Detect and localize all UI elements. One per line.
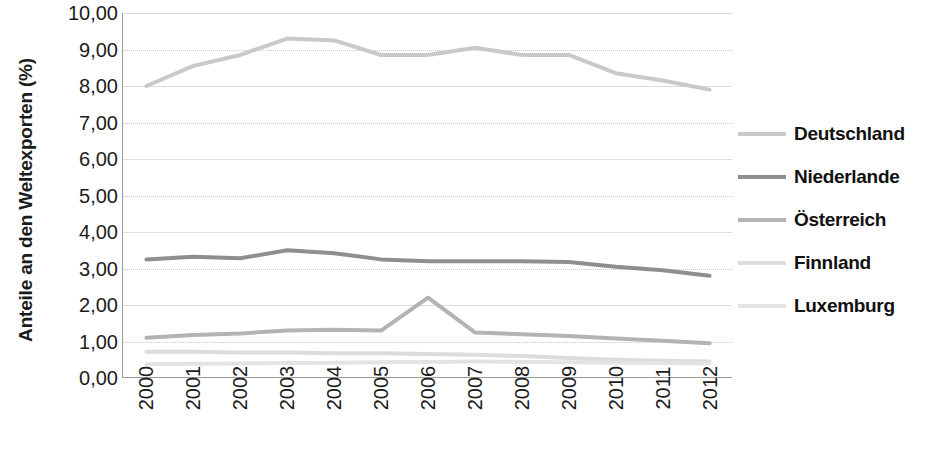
x-axis-tick-labels: 2000200120022003200420052006200720082009… [122, 378, 732, 456]
legend-label: Österreich [794, 209, 886, 231]
y-axis-tick-label: 6,00 [24, 148, 118, 171]
chart-legend: DeutschlandNiederlandeÖsterreichFinnland… [738, 112, 941, 327]
x-axis-tick-label: 2011 [652, 351, 675, 425]
legend-item[interactable]: Luxemburg [738, 284, 941, 327]
y-axis-tick-label: 5,00 [24, 184, 118, 207]
y-axis-tick-label: 9,00 [24, 38, 118, 61]
legend-color-swatch [738, 218, 786, 222]
x-axis-tick-label: 2002 [229, 351, 252, 425]
series-line [146, 298, 709, 344]
legend-label: Luxemburg [794, 295, 895, 317]
x-axis-tick-label: 2004 [323, 351, 346, 425]
legend-item[interactable]: Deutschland [738, 112, 941, 155]
x-axis-tick-label: 2003 [276, 351, 299, 425]
x-axis-tick-label: 2006 [417, 351, 440, 425]
x-axis-tick-label: 2000 [135, 351, 158, 425]
x-axis-tick-label: 2005 [370, 351, 393, 425]
x-axis-tick-label: 2001 [182, 351, 205, 425]
x-axis-tick-label: 2008 [511, 351, 534, 425]
legend-label: Niederlande [794, 166, 899, 188]
legend-item[interactable]: Finnland [738, 241, 941, 284]
legend-color-swatch [738, 132, 786, 136]
legend-label: Finnland [794, 252, 871, 274]
x-axis-tick-label: 2012 [699, 351, 722, 425]
plot-area [122, 13, 732, 378]
y-axis-tick-label: 3,00 [24, 257, 118, 280]
y-axis-tick-label: 8,00 [24, 75, 118, 98]
x-axis-tick-label: 2009 [558, 351, 581, 425]
series-line [146, 39, 709, 90]
legend-color-swatch [738, 261, 786, 265]
y-axis-tick-labels: 0,001,002,003,004,005,006,007,008,009,00… [24, 0, 118, 392]
legend-item[interactable]: Niederlande [738, 155, 941, 198]
legend-label: Deutschland [794, 123, 905, 145]
y-axis-tick-label: 10,00 [24, 2, 118, 25]
legend-color-swatch [738, 175, 786, 179]
y-axis-tick-label: 0,00 [24, 367, 118, 390]
legend-item[interactable]: Österreich [738, 198, 941, 241]
x-axis-tick-label: 2007 [464, 351, 487, 425]
plot-lines [123, 13, 733, 378]
legend-color-swatch [738, 304, 786, 308]
y-axis-tick-label: 1,00 [24, 330, 118, 353]
x-axis-tick-label: 2010 [605, 351, 628, 425]
line-chart: Anteile an den Weltexporten (%) 0,001,00… [0, 0, 941, 456]
series-line [146, 250, 709, 276]
y-axis-tick-label: 7,00 [24, 111, 118, 134]
y-axis-tick-label: 2,00 [24, 294, 118, 317]
y-axis-tick-label: 4,00 [24, 221, 118, 244]
